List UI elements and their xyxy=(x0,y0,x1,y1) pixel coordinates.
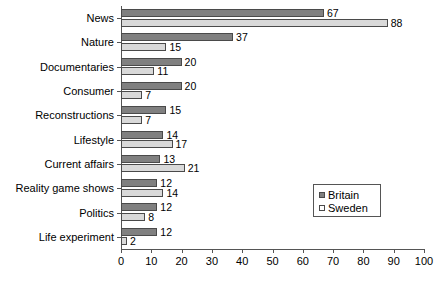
bar-britain: 14 xyxy=(121,131,163,139)
bar-sweden: 21 xyxy=(121,164,185,172)
category-row: Nature3715 xyxy=(121,30,424,54)
bar-sweden: 7 xyxy=(121,91,142,99)
bar-value-label: 20 xyxy=(185,80,197,91)
bar-value-label: 7 xyxy=(145,114,151,125)
bar-britain: 67 xyxy=(121,9,324,17)
x-axis-tick xyxy=(242,249,243,253)
bar-value-label: 15 xyxy=(169,105,181,116)
bar-britain: 20 xyxy=(121,58,182,66)
category-row: Lifestyle1417 xyxy=(121,128,424,152)
legend-swatch-sweden xyxy=(319,205,325,211)
bar-value-label: 13 xyxy=(163,153,175,164)
x-axis-tick xyxy=(424,249,425,253)
x-axis-tick xyxy=(212,249,213,253)
bar-value-label: 67 xyxy=(327,8,339,19)
bar-britain: 12 xyxy=(121,179,157,187)
bar-sweden: 2 xyxy=(121,237,127,245)
x-axis-tick-label: 10 xyxy=(145,255,157,267)
bar-britain: 15 xyxy=(121,106,166,114)
legend-swatch-britain xyxy=(319,192,325,198)
x-axis-tick-label: 40 xyxy=(236,255,248,267)
bar-value-label: 21 xyxy=(188,163,200,174)
category-label: Documentaries xyxy=(40,61,114,73)
category-row: Consumer207 xyxy=(121,79,424,103)
x-axis-tick-label: 0 xyxy=(118,255,124,267)
bar-value-label: 37 xyxy=(236,32,248,43)
bar-value-label: 14 xyxy=(166,187,178,198)
bar-value-label: 88 xyxy=(391,17,403,28)
chart-legend: BritainSweden xyxy=(313,184,381,217)
legend-entry-britain: Britain xyxy=(319,188,380,201)
category-row: Reconstructions157 xyxy=(121,103,424,127)
x-axis-tick-label: 70 xyxy=(327,255,339,267)
bar-sweden: 14 xyxy=(121,189,163,197)
x-axis-tick xyxy=(273,249,274,253)
x-axis-tick xyxy=(151,249,152,253)
legend-entry-sweden: Sweden xyxy=(319,201,380,214)
caption-sliver xyxy=(18,274,418,280)
bar-sweden: 88 xyxy=(121,19,388,27)
legend-label: Britain xyxy=(328,189,359,201)
bar-sweden: 15 xyxy=(121,43,166,51)
category-label: Reality game shows xyxy=(16,182,114,194)
category-label: Lifestyle xyxy=(74,134,114,146)
x-axis-tick xyxy=(121,249,122,253)
bar-value-label: 11 xyxy=(157,66,168,77)
bar-value-label: 15 xyxy=(169,41,181,52)
category-row: Documentaries2011 xyxy=(121,55,424,79)
bar-britain: 13 xyxy=(121,155,160,163)
category-label: Current affairs xyxy=(45,158,115,170)
bar-value-label: 2 xyxy=(130,236,136,247)
category-label: Consumer xyxy=(63,85,114,97)
x-axis-tick xyxy=(363,249,364,253)
bar-sweden: 7 xyxy=(121,116,142,124)
bar-value-label: 8 xyxy=(148,211,154,222)
category-label: Politics xyxy=(79,207,114,219)
x-axis-tick-label: 30 xyxy=(206,255,218,267)
bar-sweden: 17 xyxy=(121,140,173,148)
x-axis-tick-label: 100 xyxy=(415,255,433,267)
bar-sweden: 8 xyxy=(121,213,145,221)
x-axis-tick-label: 50 xyxy=(266,255,278,267)
category-row: Current affairs1321 xyxy=(121,152,424,176)
bar-value-label: 17 xyxy=(176,139,188,150)
category-row: News6788 xyxy=(121,6,424,30)
category-label: Nature xyxy=(81,36,114,48)
x-axis-tick-label: 80 xyxy=(357,255,369,267)
legend-label: Sweden xyxy=(328,202,368,214)
category-label: Life experiment xyxy=(39,231,114,243)
bar-value-label: 12 xyxy=(160,226,172,237)
bar-value-label: 20 xyxy=(185,56,197,67)
category-label: Reconstructions xyxy=(35,109,114,121)
bar-chart: News6788Nature3715Documentaries2011Consu… xyxy=(0,0,437,281)
x-axis-tick xyxy=(394,249,395,253)
bar-britain: 20 xyxy=(121,82,182,90)
bar-value-label: 12 xyxy=(160,202,172,213)
x-axis-tick-label: 60 xyxy=(297,255,309,267)
x-axis-tick xyxy=(303,249,304,253)
bar-sweden: 11 xyxy=(121,67,154,75)
x-axis-tick-label: 90 xyxy=(388,255,400,267)
bar-britain: 12 xyxy=(121,228,157,236)
category-label: News xyxy=(86,12,114,24)
x-axis-tick-label: 20 xyxy=(175,255,187,267)
bar-value-label: 7 xyxy=(145,90,151,101)
x-axis-tick xyxy=(182,249,183,253)
category-row: Life experiment122 xyxy=(121,225,424,249)
x-axis-tick xyxy=(333,249,334,253)
